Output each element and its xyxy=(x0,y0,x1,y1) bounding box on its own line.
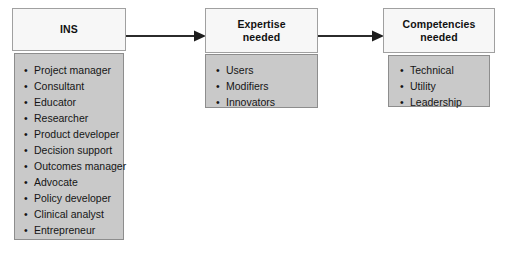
box-competencies-title-line-1: Competencies xyxy=(403,18,476,30)
box-ins-header: INS xyxy=(12,8,126,51)
box-ins: INS Project manager Consultant Educator … xyxy=(12,8,126,240)
list-item: Modifiers xyxy=(216,78,317,94)
box-competencies-header: Competencies needed xyxy=(383,8,495,53)
list-item: Policy developer xyxy=(24,190,123,206)
box-expertise-title: Expertise needed xyxy=(237,18,285,44)
list-item: Educator xyxy=(24,94,123,110)
list-item: Consultant xyxy=(24,78,123,94)
list-item: Outcomes manager xyxy=(24,158,123,174)
list-item: Users xyxy=(216,62,317,78)
box-ins-item-list: Project manager Consultant Educator Rese… xyxy=(24,62,123,238)
box-competencies-body: Technical Utility Leadership xyxy=(388,55,490,107)
list-item: Innovators xyxy=(216,94,317,110)
list-item: Product developer xyxy=(24,126,123,142)
list-item: Clinical analyst xyxy=(24,206,123,222)
box-expertise-title-line-1: Expertise xyxy=(237,18,285,30)
list-item: Utility xyxy=(400,78,489,94)
list-item: Project manager xyxy=(24,62,123,78)
arrow-ins-to-expertise-icon xyxy=(126,29,206,43)
box-competencies-item-list: Technical Utility Leadership xyxy=(400,62,489,110)
list-item: Advocate xyxy=(24,174,123,190)
list-item: Entrepreneur xyxy=(24,222,123,238)
box-expertise: Expertise needed Users Modifiers Innovat… xyxy=(205,8,318,108)
box-competencies-title: Competencies needed xyxy=(403,18,476,44)
box-expertise-item-list: Users Modifiers Innovators xyxy=(216,62,317,110)
arrow-expertise-to-competencies-icon xyxy=(318,29,384,43)
list-item: Decision support xyxy=(24,142,123,158)
box-expertise-title-line-2: needed xyxy=(243,31,280,43)
diagram-canvas: INS Project manager Consultant Educator … xyxy=(0,0,506,271)
box-competencies: Competencies needed Technical Utility Le… xyxy=(383,8,495,108)
box-ins-title: INS xyxy=(60,23,78,36)
box-expertise-body: Users Modifiers Innovators xyxy=(205,54,318,108)
box-competencies-title-line-2: needed xyxy=(420,31,457,43)
list-item: Researcher xyxy=(24,110,123,126)
list-item: Leadership xyxy=(400,94,489,110)
box-ins-body: Project manager Consultant Educator Rese… xyxy=(14,53,124,240)
list-item: Technical xyxy=(400,62,489,78)
box-expertise-header: Expertise needed xyxy=(205,8,318,53)
